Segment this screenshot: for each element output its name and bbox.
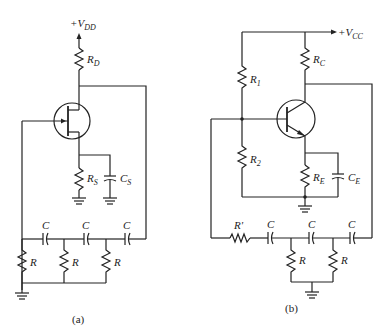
r3-label: R [113,256,121,268]
rprime-label: R' [233,219,244,231]
ground-e-icon [298,206,312,212]
rc-label: RC [312,53,326,68]
c2b-label: C [308,218,316,230]
vdd-arrow-icon [77,33,82,39]
resistor-rprime-icon [230,234,250,242]
rd-label: RD [86,53,100,68]
ground-cs-icon [103,198,117,204]
rs-label: RS [86,172,98,187]
caption-a: (a) [72,313,85,326]
vcc-arrow-icon [331,30,337,35]
vdd-label: +VDD [70,17,96,32]
r2b-label: R2 [249,153,261,168]
r5-label: R [340,254,348,266]
c1b-label: C [267,218,275,230]
emitter-arrow-icon [297,130,305,136]
c3b-label: C [348,218,356,230]
c2-label: C [82,219,90,231]
resistor-r5-icon [329,238,337,282]
resistor-rc-icon [301,32,309,84]
resistor-rs-icon [75,168,83,190]
r1b-label: R1 [249,73,261,88]
c1-label: C [42,219,50,231]
cs-label: CS [120,172,131,187]
caption-b: (b) [285,302,298,315]
ce-label: CE [348,171,360,186]
resistor-r4-icon [287,238,295,282]
r2-label: R [71,256,79,268]
vcc-label: +VCC [338,26,363,41]
resistor-r3-icon [102,239,110,283]
re-label: RE [312,171,325,186]
resistor-r2b-icon [238,119,246,197]
resistor-r2-icon [60,239,68,283]
ground-rs-icon [72,198,86,204]
resistor-r1b-icon [238,32,246,119]
circuit-diagram: +VDD RD RS CS [0,0,387,329]
gate-arrow-icon [61,119,66,124]
r4-label: R [298,254,306,266]
resistor-rd-icon [75,48,83,70]
resistor-re-icon [301,165,309,197]
panel-a: +VDD RD RS CS [15,17,146,326]
ground-a-icon [15,293,29,299]
r1-label: R [29,256,37,268]
panel-b: +VCC R1 RC R2 RE CE [211,26,372,315]
ground-b-icon [305,292,319,298]
c3-label: C [123,219,131,231]
